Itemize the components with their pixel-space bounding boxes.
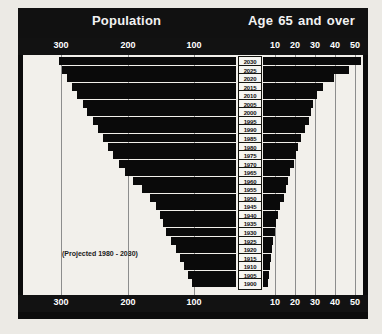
population-title: Population	[92, 13, 161, 28]
population-bar	[103, 134, 236, 142]
axis-tick-label: 10	[270, 40, 280, 50]
population-bar	[87, 108, 236, 116]
age-title-word-0: Age	[248, 13, 273, 28]
year-label: 1900	[238, 278, 262, 290]
population-bar	[188, 271, 236, 279]
table-row: 1900	[23, 279, 363, 289]
population-bar	[62, 66, 236, 74]
axis-tick-label: 50	[350, 40, 360, 50]
age65-bar	[263, 202, 280, 210]
population-bar	[113, 151, 236, 159]
population-bar	[163, 219, 236, 227]
age65-bar	[263, 177, 288, 185]
population-bar	[93, 117, 236, 125]
population-pyramid-chart: Population Age65andover 3002001001020304…	[0, 0, 382, 334]
population-bar	[166, 228, 236, 236]
axis-tick-label: 20	[290, 297, 300, 307]
axis-tick-label: 40	[330, 40, 340, 50]
population-bar	[160, 211, 236, 219]
age-title-word-3: over	[327, 13, 355, 28]
age65-bar	[263, 279, 268, 287]
age65-bar	[263, 168, 290, 176]
population-bar	[59, 57, 236, 65]
bar-rows: 2030202520202015201020052000199519901985…	[23, 55, 363, 295]
axis-tick-label: 20	[290, 40, 300, 50]
axis-tick-label: 30	[310, 297, 320, 307]
axis-tick-label: 300	[53, 297, 68, 307]
age65-bar	[263, 160, 294, 168]
age65-bar	[263, 100, 313, 108]
age-title-word-2: and	[298, 13, 322, 28]
age65-bar	[263, 108, 311, 116]
bottom-axis: 3002001001020304050	[18, 295, 368, 312]
population-bar	[150, 194, 236, 202]
population-bar	[98, 125, 236, 133]
population-bar	[142, 185, 236, 193]
age65-bar	[263, 194, 284, 202]
axis-tick-label: 200	[120, 40, 135, 50]
top-axis: 3002001001020304050	[18, 38, 368, 55]
population-bar	[125, 168, 236, 176]
age65-bar	[263, 57, 361, 65]
population-bar	[180, 254, 236, 262]
axis-tick-label: 30	[310, 40, 320, 50]
age65-bar	[263, 143, 298, 151]
population-bar	[72, 83, 236, 91]
population-bar	[119, 160, 236, 168]
chart-header: Population Age65andover	[18, 8, 368, 38]
population-bar	[108, 143, 236, 151]
axis-tick-label: 100	[186, 297, 201, 307]
population-bar	[192, 279, 236, 287]
age65-bar	[263, 91, 317, 99]
age65-bar	[263, 211, 278, 219]
age-title-word-1: 65	[278, 13, 293, 28]
age65-bar	[263, 245, 272, 253]
age65-bar	[263, 262, 270, 270]
age65-bar	[263, 74, 334, 82]
age65-bar	[263, 66, 349, 74]
age65-bar	[263, 117, 309, 125]
population-bar	[176, 245, 236, 253]
population-bar	[156, 202, 236, 210]
population-bar	[77, 91, 236, 99]
age65-bar	[263, 271, 269, 279]
axis-tick-label: 100	[186, 40, 201, 50]
axis-tick-label: 300	[53, 40, 68, 50]
age65-bar	[263, 83, 323, 91]
population-bar	[83, 100, 236, 108]
age65-bar	[263, 254, 271, 262]
age65-bar	[263, 134, 301, 142]
axis-tick-label: 200	[120, 297, 135, 307]
age65-bar	[263, 228, 275, 236]
chart-frame: Population Age65andover 3002001001020304…	[18, 8, 368, 319]
age65-bar	[263, 185, 286, 193]
age-65-and-over-title: Age65andover	[248, 13, 360, 28]
axis-tick-label: 50	[350, 297, 360, 307]
population-bar	[67, 74, 236, 82]
age65-bar	[263, 151, 296, 159]
age65-bar	[263, 219, 276, 227]
population-bar	[171, 237, 236, 245]
plot-area: 2030202520202015201020052000199519901985…	[23, 55, 363, 295]
axis-tick-label: 40	[330, 297, 340, 307]
projected-annotation: (Projected 1980 - 2030)	[62, 250, 138, 257]
population-bar	[133, 177, 236, 185]
age65-bar	[263, 125, 305, 133]
population-bar	[184, 262, 236, 270]
axis-tick-label: 10	[270, 297, 280, 307]
age65-bar	[263, 237, 273, 245]
